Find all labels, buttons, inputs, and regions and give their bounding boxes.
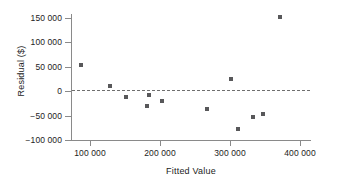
- scatter-point: [205, 107, 209, 111]
- scatter-point: [124, 95, 128, 99]
- y-axis-tick: [65, 18, 71, 19]
- x-axis-tick-label: 100 000: [60, 149, 120, 158]
- y-axis-tick-label: 100 000: [31, 38, 62, 47]
- scatter-point: [108, 84, 112, 88]
- y-axis-line: [71, 14, 72, 141]
- y-axis-tick: [65, 116, 71, 117]
- y-axis-tick: [65, 91, 71, 92]
- y-axis-title: Residual ($): [16, 21, 26, 121]
- x-axis-title: Fitted Value: [71, 166, 311, 176]
- y-axis-tick-label: 50 000: [35, 63, 62, 72]
- scatter-point: [229, 77, 233, 81]
- residual-scatter-plot: 150 000100 00050 0000−50 000−100 000 100…: [0, 0, 338, 187]
- x-axis-tick: [90, 141, 91, 146]
- x-axis-line: [71, 140, 311, 141]
- x-axis-tick: [160, 141, 161, 146]
- y-axis-tick: [65, 140, 71, 141]
- x-axis-tick-label: 200 000: [130, 149, 190, 158]
- y-axis-tick: [65, 42, 71, 43]
- y-axis-tick-label: −50 000: [30, 112, 62, 121]
- scatter-point: [160, 99, 164, 103]
- x-axis-tick: [300, 141, 301, 146]
- scatter-point: [236, 127, 240, 131]
- y-axis-tick-label: −100 000: [26, 136, 63, 145]
- scatter-point: [261, 112, 265, 116]
- y-axis-tick-label: 0: [57, 87, 62, 96]
- scatter-point: [251, 115, 255, 119]
- scatter-point: [278, 15, 282, 19]
- scatter-point: [79, 63, 83, 67]
- zero-reference-line: [72, 90, 310, 91]
- x-axis-tick-label: 400 000: [270, 149, 330, 158]
- scatter-point: [147, 93, 151, 97]
- scatter-point: [145, 104, 149, 108]
- x-axis-tick: [230, 141, 231, 146]
- x-axis-tick-label: 300 000: [200, 149, 260, 158]
- y-axis-tick-label: 150 000: [31, 14, 62, 23]
- y-axis-tick: [65, 67, 71, 68]
